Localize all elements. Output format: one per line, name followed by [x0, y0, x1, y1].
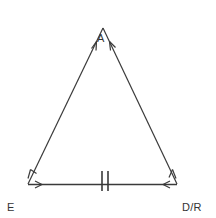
vertex-label-bottom-right: D/R DO [182, 177, 202, 218]
vertex-label-bottom-right-line1: D/R [182, 201, 202, 213]
geometry-diagram-canvas: A E O D/R DO [0, 0, 216, 218]
vertex-label-apex: A [97, 8, 110, 68]
vertex-label-bottom-left: E O [7, 177, 20, 218]
left-leg-line [28, 28, 103, 184]
vertex-label-bottom-left-line1: E [7, 201, 20, 213]
vertex-label-apex-text: A [97, 32, 110, 44]
base-tick-marks-icon [102, 171, 108, 191]
right-leg-line [103, 28, 177, 184]
